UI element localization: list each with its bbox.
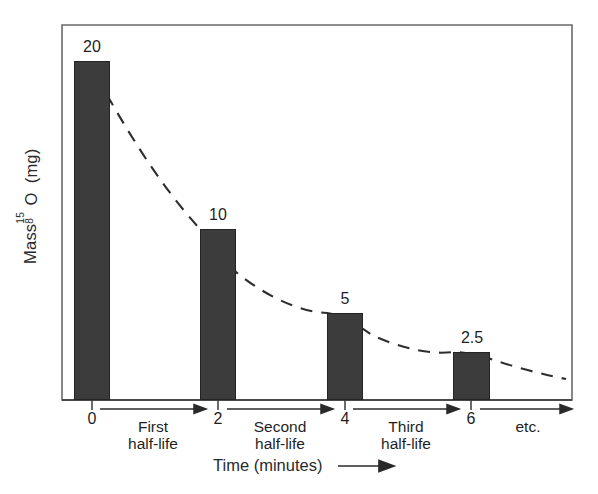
element-symbol: O	[21, 192, 39, 205]
third-half-life-line1: Third	[356, 418, 456, 435]
x-axis-title: Time (minutes)	[213, 456, 322, 475]
bar-4min	[327, 313, 363, 400]
bar-label-6min: 2.5	[442, 329, 502, 347]
oxygen-15-isotope-notation: 15 8	[20, 206, 37, 223]
second-half-life-label: Second half-life	[230, 418, 330, 453]
second-half-life-line2: half-life	[230, 435, 330, 452]
first-half-life-line2: half-life	[103, 435, 203, 452]
bar-label-4min: 5	[315, 290, 375, 308]
y-axis-title: Mass 15 8 O(mg)	[20, 96, 41, 316]
bar-label-2min: 10	[188, 206, 248, 224]
y-axis-unit: (mg)	[21, 149, 39, 184]
etc-label: etc.	[478, 418, 578, 435]
third-half-life-line2: half-life	[356, 435, 456, 452]
first-half-life-label: First half-life	[103, 418, 203, 453]
bar-2min	[200, 229, 236, 400]
bar-6min	[453, 352, 490, 400]
atomic-number: 8	[24, 218, 35, 224]
x-axis-title-arrowhead	[379, 461, 394, 472]
decay-bar-chart: 20 10 5 2.5 0 2 4 6 First half-life Seco…	[0, 0, 598, 494]
x-axis-title-arrow	[338, 461, 394, 472]
first-half-life-line1: First	[103, 418, 203, 435]
bar-0min	[74, 61, 110, 400]
etc-arrowhead	[560, 405, 572, 414]
third-half-life-label: Third half-life	[356, 418, 456, 453]
bar-label-0min: 20	[62, 38, 122, 56]
second-half-life-line1: Second	[230, 418, 330, 435]
y-axis-quantity: Mass	[21, 224, 39, 264]
